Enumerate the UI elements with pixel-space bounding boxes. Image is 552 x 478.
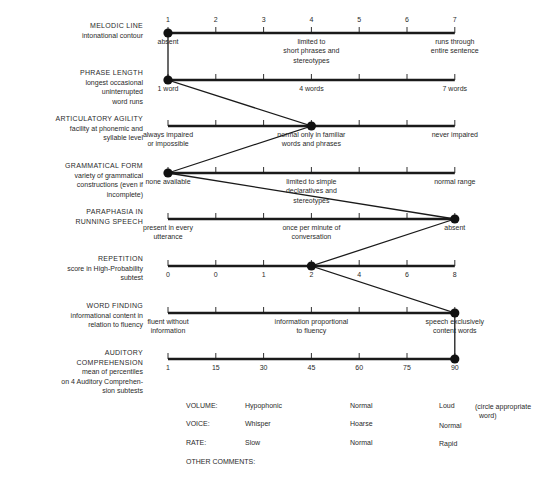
row-label-title: MELODIC LINE (0, 21, 143, 31)
rate-label: RATE: (186, 439, 206, 446)
volume-label: VOLUME: (186, 402, 218, 409)
row-label-title: ARTICULATORY AGILITY (0, 114, 143, 124)
anchor-label-line: stereotypes (251, 56, 371, 65)
tick-label: 8 (445, 271, 465, 278)
anchor-label: 4 words (251, 84, 371, 93)
tick-label: 15 (206, 364, 226, 371)
tick-label: 1 (158, 364, 178, 371)
rate-option-slow[interactable]: Slow (245, 439, 260, 446)
anchor-label-line: speech exclusively (395, 317, 515, 326)
tick-label: 30 (254, 364, 274, 371)
tick-label: 0 (158, 271, 178, 278)
anchor-label: 1 word (108, 84, 228, 93)
row-label-title: REPETITION (0, 254, 143, 264)
rating-point[interactable] (450, 354, 459, 363)
row-label-title: PARAPHASIA IN (0, 207, 143, 217)
anchor-label: runs throughentire sentence (395, 37, 515, 56)
row-label-title: WORD FINDING (0, 301, 143, 311)
circle-note: (circle appropriate word) (475, 402, 531, 420)
anchor-label-line: runs through (395, 37, 515, 46)
tick-label: 3 (254, 16, 274, 23)
row-label-title: PHRASE LENGTH (0, 68, 143, 78)
anchor-label: once per minute ofconversation (251, 223, 371, 242)
row-label-title: AUDITORY (0, 348, 143, 358)
anchor-label: present in everyutterance (108, 223, 228, 242)
tick-label: 5 (349, 16, 369, 23)
anchor-label-line: never impaired (395, 130, 515, 139)
anchor-label: never impaired (395, 130, 515, 139)
volume-option-hypophonic[interactable]: Hypophonic (245, 402, 282, 409)
anchor-label-line: short phrases and (251, 46, 371, 55)
tick-label: 60 (349, 364, 369, 371)
rating-point[interactable] (307, 261, 316, 270)
anchor-label: always impairedor impossible (108, 130, 228, 149)
circle-note-line1: (circle appropriate (475, 402, 531, 411)
tick-label: 6 (397, 271, 417, 278)
other-comments-label: OTHER COMMENTS: (186, 458, 255, 465)
anchor-label-line: once per minute of (251, 223, 371, 232)
tick-label: 0 (206, 271, 226, 278)
anchor-label: absent (395, 223, 515, 232)
anchor-label-line: always impaired (108, 130, 228, 139)
row-label-subtitle: sion subtests (0, 386, 143, 396)
row-label-subtitle: subtest (0, 273, 143, 283)
anchor-label-line: information (108, 326, 228, 335)
tick-label: 2 (206, 16, 226, 23)
anchor-label-line: limited to simple (251, 177, 371, 186)
anchor-label: limited toshort phrases andstereotypes (251, 37, 371, 65)
anchor-label-line: entire sentence (395, 46, 515, 55)
anchor-label-line: absent (395, 223, 515, 232)
anchor-label: normal range (395, 177, 515, 186)
anchor-label-line: to fluency (251, 326, 371, 335)
anchor-label-line: words and phrases (251, 139, 371, 148)
row-label: REPETITIONscore in High-Probabilitysubte… (0, 254, 143, 283)
anchor-label-line: utterance (108, 232, 228, 241)
anchor-label-line: present in every (108, 223, 228, 232)
anchor-label-line: content words (395, 326, 515, 335)
anchor-label: absent (108, 37, 228, 46)
anchor-label-line: 4 words (251, 84, 371, 93)
anchor-label-line: conversation (251, 232, 371, 241)
row-label-subtitle: COMPREHENSION (0, 358, 143, 368)
anchor-label-line: 1 word (108, 84, 228, 93)
voice-option-whisper[interactable]: Whisper (245, 420, 271, 427)
voice-option-normal[interactable]: Normal (439, 422, 462, 429)
row-label-subtitle: mean of percentiles (0, 367, 143, 377)
row-label: AUDITORYCOMPREHENSIONmean of percentiles… (0, 348, 143, 396)
row-label-subtitle: word runs (0, 97, 143, 107)
anchor-label: none available (108, 177, 228, 186)
volume-option-loud[interactable]: Loud (439, 402, 455, 409)
anchor-label: fluent withoutinformation (108, 317, 228, 336)
tick-label: 45 (301, 364, 321, 371)
tick-label: 75 (397, 364, 417, 371)
rate-option-normal[interactable]: Normal (350, 439, 373, 446)
anchor-label-line: declaratives and (251, 186, 371, 195)
anchor-label: information proportionalto fluency (251, 317, 371, 336)
row-label-subtitle: on 4 Auditory Comprehen- (0, 377, 143, 387)
tick-label: 6 (397, 16, 417, 23)
anchor-label: speech exclusivelycontent words (395, 317, 515, 336)
anchor-label-line: fluent without (108, 317, 228, 326)
tick-label: 90 (445, 364, 465, 371)
anchor-label-line: none available (108, 177, 228, 186)
anchor-label-line: stereotypes (251, 196, 371, 205)
tick-label: 7 (445, 16, 465, 23)
anchor-label: limited to simpledeclaratives andstereot… (251, 177, 371, 205)
tick-label: 2 (301, 271, 321, 278)
tick-label: 4 (349, 271, 369, 278)
row-label-subtitle: incomplete) (0, 190, 143, 200)
tick-label: 1 (158, 16, 178, 23)
rate-option-rapid[interactable]: Rapid (439, 440, 457, 447)
anchor-label-line: normal only in familiar (251, 130, 371, 139)
anchor-label: 7 words (395, 84, 515, 93)
voice-label: VOICE: (186, 420, 210, 427)
anchor-label: normal only in familiarwords and phrases (251, 130, 371, 149)
anchor-label-line: information proportional (251, 317, 371, 326)
tick-label: 4 (301, 16, 321, 23)
voice-option-hoarse[interactable]: Hoarse (350, 420, 373, 427)
anchor-label-line: 7 words (395, 84, 515, 93)
volume-option-normal[interactable]: Normal (350, 402, 373, 409)
tick-label: 1 (254, 271, 274, 278)
anchor-label-line: or impossible (108, 139, 228, 148)
circle-note-line2: word) (475, 411, 531, 420)
